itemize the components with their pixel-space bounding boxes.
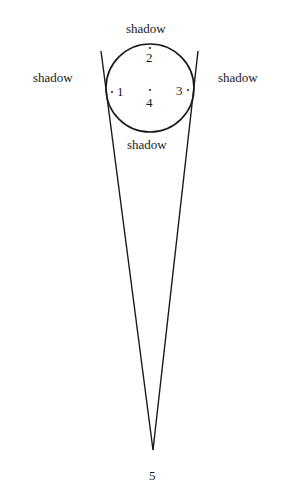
- right-tangent-line: [153, 51, 198, 450]
- point-1-marker: [111, 91, 113, 93]
- point-5-label: 5: [149, 469, 156, 482]
- point-4-label: 4: [146, 96, 153, 109]
- point-1-label: 1: [117, 85, 124, 98]
- point-3-label: 3: [176, 84, 183, 97]
- point-2-label: 2: [146, 51, 153, 64]
- left-tangent-line: [101, 51, 153, 450]
- shadow-label-top: shadow: [126, 22, 166, 35]
- point-4-marker: [149, 89, 151, 91]
- point-3-marker: [187, 89, 189, 91]
- shadow-label-bottom: shadow: [127, 138, 167, 151]
- shadow-label-right: shadow: [218, 71, 258, 84]
- shadow-label-left: shadow: [33, 71, 73, 84]
- point-2-marker: [149, 47, 151, 49]
